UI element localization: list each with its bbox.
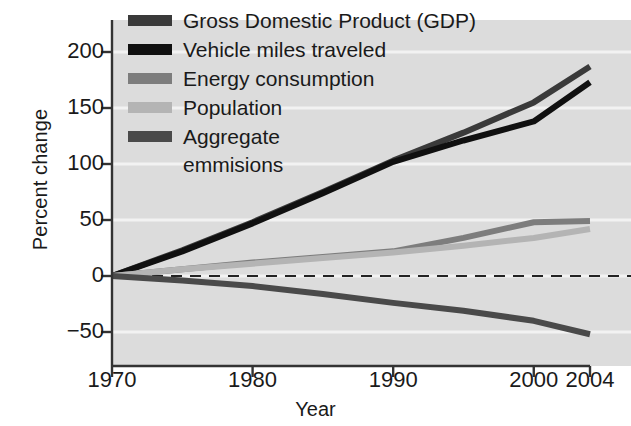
legend-swatch-aggregate-emmisions (128, 131, 172, 142)
legend-item-vehicle-miles-traveled: Vehicle miles traveled (128, 35, 458, 64)
legend-label-population: Population (183, 93, 282, 122)
legend-item-aggregate-emmisions: Aggregate (128, 122, 458, 151)
legend-swatch-energy-consumption (128, 73, 172, 84)
legend-swatch-gdp (128, 15, 172, 26)
legend-item-gdp: Gross Domestic Product (GDP) (128, 6, 458, 35)
chart-legend: Gross Domestic Product (GDP) Vehicle mil… (128, 6, 458, 178)
legend-label-aggregate-emmisions-line2: emmisions (183, 151, 458, 178)
legend-label-energy-consumption: Energy consumption (183, 64, 374, 93)
y-axis-title: Percent change (29, 60, 52, 300)
x-tick-label: 1980 (228, 368, 277, 392)
legend-swatch-population (128, 102, 172, 113)
legend-label-vehicle-miles-traveled: Vehicle miles traveled (183, 35, 386, 64)
x-tick-label: 2004 (566, 368, 615, 392)
x-tick-label: 1970 (88, 368, 137, 392)
chart-figure: 200150100500−50 19701980199020002004 Per… (0, 0, 631, 426)
legend-label-gdp: Gross Domestic Product (GDP) (183, 6, 476, 35)
legend-item-energy-consumption: Energy consumption (128, 64, 458, 93)
x-tick-label: 2000 (509, 368, 558, 392)
y-tick-label: −50 (32, 320, 104, 342)
x-axis-title: Year (0, 398, 631, 421)
legend-label-aggregate-emmisions: Aggregate (183, 122, 280, 151)
y-axis-tick-labels: 200150100500−50 (0, 0, 104, 426)
x-tick-label: 1990 (369, 368, 418, 392)
legend-swatch-vehicle-miles-traveled (128, 44, 172, 55)
legend-item-population: Population (128, 93, 458, 122)
